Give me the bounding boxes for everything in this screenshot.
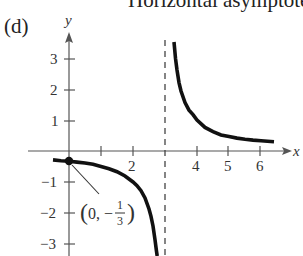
svg-text:(: ( xyxy=(80,199,88,225)
x-tick-label-2: 2 xyxy=(128,158,136,174)
fraction-denominator: 3 xyxy=(117,214,123,228)
y-tick-label-1: 1 xyxy=(51,113,59,129)
curve-right-branch xyxy=(174,42,274,142)
fraction-numerator: 1 xyxy=(117,198,123,212)
point-label: ( 0, − 1 3 ) xyxy=(80,198,135,228)
x-axis-label: x xyxy=(292,143,300,159)
y-intercept-point xyxy=(65,157,73,165)
y-tick-label-neg3: −3 xyxy=(40,236,56,252)
y-tick-label-neg1: −1 xyxy=(41,174,57,190)
x-tick-label-6: 6 xyxy=(256,158,264,174)
y-axis-label: y xyxy=(63,12,72,28)
y-tick-label-neg2: −2 xyxy=(40,205,56,221)
svg-text:0, −: 0, − xyxy=(88,205,113,222)
x-tick-label-5: 5 xyxy=(224,158,232,174)
annotation-leader-line xyxy=(72,165,99,194)
y-tick-label-2: 2 xyxy=(50,82,58,98)
svg-text:): ) xyxy=(127,199,135,225)
y-tick-label-3: 3 xyxy=(50,51,58,67)
x-tick-label-4: 4 xyxy=(192,158,200,174)
graph: x y 2 4 5 6 3 2 1 −1 −2 −3 ( 0, − 1 xyxy=(0,0,303,256)
